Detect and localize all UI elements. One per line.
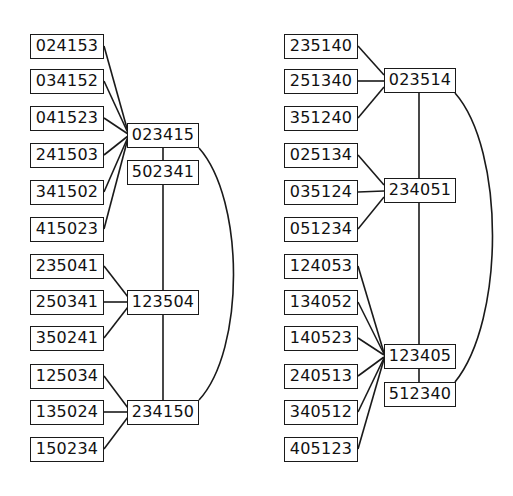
leaf-node: 041523 [30,106,104,131]
hub-node: 123504 [127,290,199,315]
edge [358,87,384,118]
leaf-node: 240513 [284,364,358,389]
leaf-node: 124053 [284,254,358,279]
edge-arc [199,148,234,400]
hub-node: 023514 [384,68,456,93]
diagram-canvas: 024153 034152 041523 241503 341502 41502… [0,0,513,496]
edge [104,417,128,449]
leaf-node: 150234 [30,437,104,462]
hub-node: 512340 [384,382,456,407]
leaf-node: 251340 [284,69,358,94]
edge [104,266,128,297]
leaf-node: 125034 [30,364,104,389]
leaf-node: 034152 [30,69,104,94]
hub-node: 123405 [384,344,456,369]
leaf-node: 415023 [30,217,104,242]
edge [104,376,128,408]
leaf-node: 351240 [284,106,358,131]
hub-node: 234150 [127,400,199,425]
leaf-node: 025134 [284,143,358,168]
leaf-node: 051234 [284,217,358,242]
leaf-node: 350241 [30,326,104,351]
edge-arc [455,93,493,382]
leaf-node: 340512 [284,400,358,425]
edge [358,191,384,192]
leaf-node: 250341 [30,290,104,315]
edge [104,307,128,338]
hub-node: 234051 [384,178,456,203]
leaf-node: 341502 [30,180,104,205]
leaf-node: 134052 [284,290,358,315]
leaf-node: 405123 [284,437,358,462]
leaf-node: 235140 [284,34,358,59]
hub-node: 502341 [127,160,199,185]
edge [358,197,384,229]
leaf-node: 135024 [30,400,104,425]
leaf-node: 140523 [284,326,358,351]
leaf-node: 024153 [30,34,104,59]
leaf-node: 035124 [284,180,358,205]
leaf-node: 241503 [30,143,104,168]
hub-node: 023415 [127,123,199,148]
edge [358,155,384,185]
edge [358,46,384,75]
leaf-node: 235041 [30,254,104,279]
